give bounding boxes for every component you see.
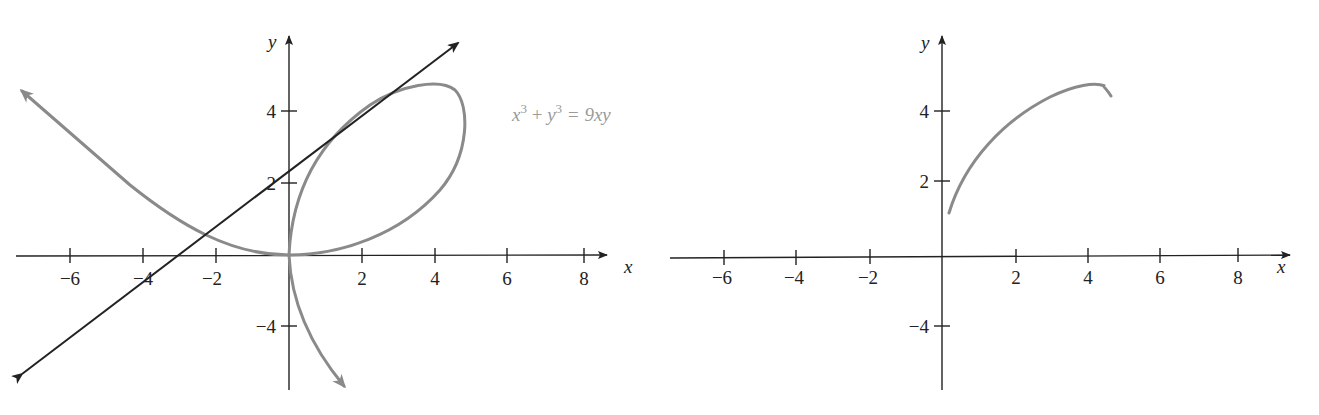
x-axis — [670, 255, 1290, 258]
x-tick-label: 2 — [1011, 267, 1021, 288]
x-tick-label: −2 — [858, 267, 878, 288]
x-tick-label: 4 — [1083, 267, 1093, 288]
x-tick-label: 6 — [1155, 267, 1165, 288]
upper-branch-curve — [949, 84, 1111, 213]
y-axis-label: y — [919, 32, 930, 53]
folium-left-branch — [22, 91, 289, 255]
tangent-line — [22, 43, 458, 374]
left-plot: −6 −4 −2 2 4 6 8 4 2 −4 x y x3 + y3 = 9x… — [16, 31, 633, 390]
y-tick-label: −4 — [909, 316, 930, 337]
x-tick-label: 4 — [430, 268, 440, 289]
y-tick-label: 4 — [267, 101, 277, 122]
y-tick-label: 4 — [920, 101, 930, 122]
y-axis-label: y — [266, 31, 277, 52]
x-tick-label: −2 — [202, 268, 222, 289]
x-tick-label: 2 — [357, 268, 367, 289]
x-tick-label: 8 — [579, 268, 589, 289]
y-tick-label: −4 — [256, 316, 277, 337]
x-tick-label: −6 — [60, 268, 80, 289]
x-tick-label: −4 — [133, 268, 154, 289]
x-tick-label: 8 — [1233, 267, 1243, 288]
x-tick-label: 6 — [502, 268, 512, 289]
figure-canvas: −6 −4 −2 2 4 6 8 4 2 −4 x y x3 + y3 = 9x… — [0, 0, 1319, 415]
x-axis-label: x — [623, 256, 633, 277]
folium-loop — [289, 84, 465, 255]
x-tick-label: −6 — [712, 267, 732, 288]
equation-label: x3 + y3 = 9xy — [511, 101, 611, 125]
folium-lower-branch — [289, 255, 344, 386]
y-tick-label: 2 — [920, 171, 930, 192]
right-plot: −6 −4 −2 2 4 6 8 4 2 −4 x y — [670, 32, 1290, 390]
x-axis-label: x — [1276, 256, 1286, 277]
x-tick-label: −4 — [784, 267, 805, 288]
